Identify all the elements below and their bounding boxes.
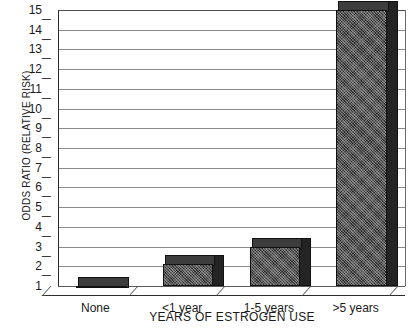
y-axis-tick-mark xyxy=(41,89,59,99)
x-axis-title: YEARS OF ESTROGEN USE xyxy=(58,310,406,324)
y-axis-tick-mark xyxy=(41,128,59,138)
y-axis-tick-label: 10 xyxy=(22,104,42,114)
y-axis-tick-label: 15 xyxy=(22,5,42,15)
y-axis-tick-mark xyxy=(41,168,59,178)
y-axis-tick-label: 3 xyxy=(22,242,42,252)
y-axis-tick-label: 9 xyxy=(22,123,42,133)
y-axis-tick-mark xyxy=(41,187,59,197)
y-axis-tick-label: 2 xyxy=(22,261,42,271)
y-axis-tick-mark xyxy=(41,247,59,257)
y-axis-tick-label: 7 xyxy=(22,163,42,173)
y-axis-tick-label: 5 xyxy=(22,202,42,212)
y-axis-tick-label: 8 xyxy=(22,143,42,153)
y-axis-tick-label: 14 xyxy=(22,25,42,35)
plot-right-border xyxy=(405,10,406,286)
bar-chart: ODDS RATIO (RELATIVE RISK) 1234567891011… xyxy=(0,0,416,329)
bar-front-face xyxy=(163,264,213,286)
y-axis-tick-label: 6 xyxy=(22,182,42,192)
y-axis-tick-mark xyxy=(41,207,59,217)
y-axis-tick-mark xyxy=(41,49,59,59)
y-axis-tick-label: 12 xyxy=(22,64,42,74)
y-axis-tick-mark xyxy=(41,266,59,276)
y-axis-tick-mark xyxy=(41,10,59,20)
y-axis-tick-label: 11 xyxy=(22,84,42,94)
y-axis-tick-mark xyxy=(41,227,59,237)
y-axis-tick-mark xyxy=(41,69,59,79)
y-axis-tick-mark xyxy=(41,148,59,158)
bar-front-face xyxy=(250,247,300,286)
y-axis-tick-label: 13 xyxy=(22,44,42,54)
bar-side-face xyxy=(386,1,398,286)
bar-front-face xyxy=(76,286,126,288)
y-axis-line xyxy=(58,10,59,286)
y-axis-tick-label: 4 xyxy=(22,222,42,232)
bar-front-face xyxy=(336,10,386,286)
x-axis-tick-mark xyxy=(388,286,408,296)
y-axis-tick-mark xyxy=(41,30,59,40)
y-axis-tick-mark xyxy=(41,109,59,119)
y-axis-tick-label: 1 xyxy=(22,281,42,291)
